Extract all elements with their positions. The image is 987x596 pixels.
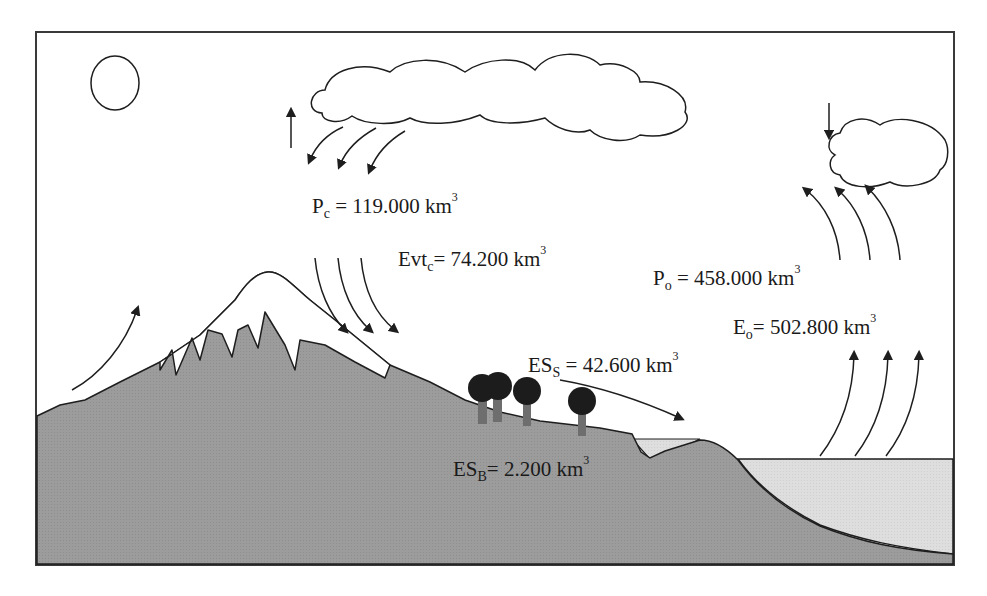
label-exponent: 3	[673, 349, 679, 363]
label-exponent: 3	[870, 311, 876, 325]
label-eq: =	[753, 315, 770, 339]
label-value: 74.200	[450, 247, 508, 271]
label-exponent: 3	[583, 453, 589, 467]
label-value: 2.200	[504, 457, 551, 481]
label-value: 42.600	[583, 353, 641, 377]
label-subscript: o	[665, 278, 672, 293]
ocean-precipitation-label: Po = 458.000 km3	[653, 263, 800, 293]
label-eq: =	[487, 457, 504, 481]
label-exponent: 3	[794, 262, 800, 276]
base-flow-label: ESB= 2.200 km3	[453, 454, 589, 484]
label-symbol: E	[733, 315, 746, 339]
label-value: 502.800	[770, 315, 838, 339]
label-exponent: 3	[540, 243, 546, 257]
label-unit: km	[513, 247, 540, 271]
label-exponent: 3	[452, 190, 458, 204]
diagram-canvas	[0, 0, 987, 596]
label-unit: km	[843, 315, 870, 339]
label-symbol: ES	[528, 353, 553, 377]
label-unit: km	[768, 266, 795, 290]
label-eq: =	[330, 194, 352, 218]
label-eq: =	[672, 266, 694, 290]
label-eq: =	[433, 247, 450, 271]
ocean-evaporation-label: Eo= 502.800 km3	[733, 312, 876, 342]
surface-runoff-label: ESS = 42.600 km3	[528, 350, 679, 380]
continental-evapotranspiration-label: Evtc= 74.200 km3	[398, 244, 546, 274]
label-symbol: ES	[453, 457, 478, 481]
label-symbol: P	[312, 194, 324, 218]
ocean-cloud-icon	[829, 119, 948, 187]
label-symbol: Evt	[398, 247, 427, 271]
label-unit: km	[646, 353, 673, 377]
label-value: 119.000	[352, 194, 419, 218]
label-unit: km	[425, 194, 452, 218]
label-subscript: o	[746, 327, 753, 342]
label-value: 458.000	[694, 266, 762, 290]
label-symbol: P	[653, 266, 665, 290]
water-cycle-diagram: Pc = 119.000 km3 Evtc= 74.200 km3 Po = 4…	[0, 0, 987, 596]
label-unit: km	[556, 457, 583, 481]
label-subscript: B	[478, 469, 487, 484]
sun-icon	[91, 56, 139, 110]
label-eq: =	[560, 353, 582, 377]
continental-precipitation-label: Pc = 119.000 km3	[312, 191, 458, 221]
